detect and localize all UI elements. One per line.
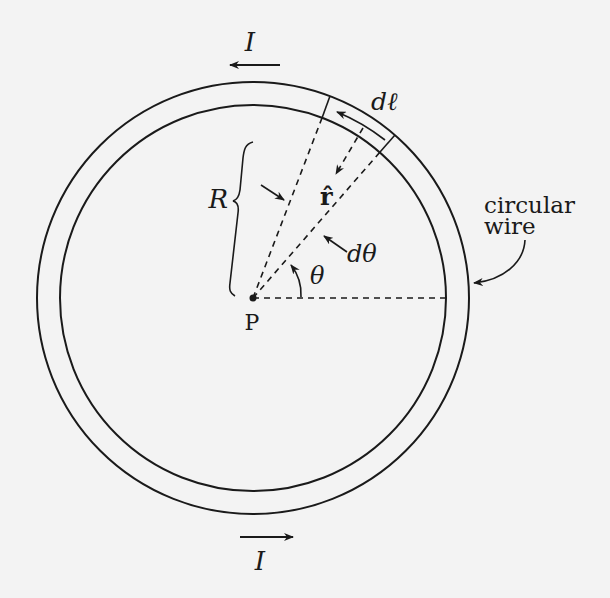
dtheta-pointer-arrow [324, 236, 347, 252]
point-p [250, 295, 257, 302]
wire-pointer-arrow [474, 240, 525, 283]
label-theta: θ [310, 262, 325, 290]
label-current-top: I [244, 27, 256, 57]
label-dl: dℓ [371, 87, 398, 116]
label-r-hat: r̂ [320, 182, 333, 211]
radius-brace [230, 142, 253, 296]
label-current-bottom: I [254, 546, 266, 576]
circular-wire-diagram: I I dℓ r̂ R dθ θ P circular wire [0, 0, 610, 598]
radius-pointer-arrow [261, 185, 284, 200]
label-dtheta: dθ [347, 240, 377, 268]
theta-angle-arrow [291, 265, 301, 297]
label-wire: wire [484, 213, 536, 239]
dl-arrow [337, 112, 385, 140]
r-hat-arrow [336, 128, 363, 174]
dl-boundary-a [322, 96, 330, 118]
label-radius: R [207, 184, 228, 214]
label-point-p: P [245, 310, 260, 335]
